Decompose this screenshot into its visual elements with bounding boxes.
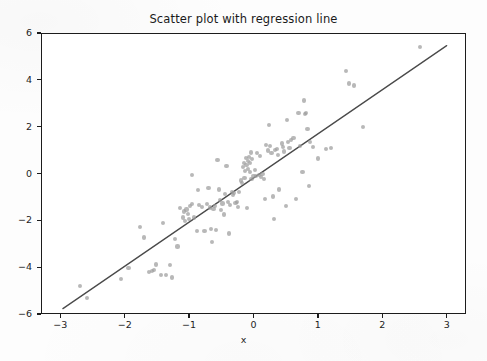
x-axis-tick-label: −1 [174, 319, 204, 330]
scatter-point [287, 146, 291, 150]
figure-container: Scatter plot with regression line −6−4−2… [0, 0, 487, 361]
scatter-point [235, 200, 239, 204]
scatter-point [214, 228, 218, 232]
x-axis-tick-label: 3 [432, 319, 462, 330]
y-axis-tick-label: 4 [2, 74, 32, 85]
scatter-point [347, 81, 351, 85]
scatter-point [262, 177, 266, 181]
scatter-point [307, 184, 311, 188]
scatter-point [142, 235, 146, 239]
x-axis-tick [188, 314, 189, 318]
scatter-point [206, 186, 210, 190]
scatter-point [213, 204, 217, 208]
scatter-point [249, 150, 253, 154]
scatter-point [275, 147, 279, 151]
y-axis-tick [37, 126, 41, 127]
x-axis-tick [446, 314, 447, 318]
y-axis-tick [37, 79, 41, 80]
scatter-point [361, 125, 365, 129]
scatter-point [200, 205, 204, 209]
scatter-point [296, 111, 300, 115]
x-axis-label: x [0, 334, 487, 345]
y-axis-tick [37, 173, 41, 174]
y-axis-tick-label: 6 [2, 27, 32, 38]
scatter-point [78, 284, 82, 288]
scatter-point [154, 262, 158, 266]
scatter-point [192, 215, 196, 219]
scatter-point [277, 187, 281, 191]
scatter-point [285, 118, 289, 122]
y-axis-tick-label: −4 [2, 261, 32, 272]
y-axis-tick-label: −2 [2, 214, 32, 225]
x-axis-tick [124, 314, 125, 318]
x-axis-tick-label: −3 [45, 319, 75, 330]
x-axis-tick-label: 1 [303, 319, 333, 330]
scatter-point [220, 201, 224, 205]
scatter-point [324, 147, 328, 151]
scatter-point [202, 229, 206, 233]
scatter-point [175, 244, 179, 248]
scatter-point [152, 268, 156, 272]
scatter-point [260, 172, 264, 176]
y-axis-tick [37, 220, 41, 221]
scatter-point [271, 194, 275, 198]
scatter-point [119, 277, 123, 281]
scatter-point [224, 164, 228, 168]
x-axis-tick-label: 0 [239, 319, 269, 330]
scatter-point [242, 176, 246, 180]
scatter-point [186, 212, 190, 216]
y-axis-tick [37, 313, 41, 314]
x-axis-tick [60, 314, 61, 318]
y-axis-tick-label: −6 [2, 308, 32, 319]
y-axis-tick-label: 2 [2, 121, 32, 132]
y-axis-tick [37, 32, 41, 33]
y-axis-tick-label: 0 [2, 168, 32, 179]
x-axis-tick-label: 2 [367, 319, 397, 330]
x-axis-tick [382, 314, 383, 318]
scatter-point [195, 229, 199, 233]
x-axis-tick [317, 314, 318, 318]
scatter-point [316, 156, 320, 160]
scatter-point [222, 212, 226, 216]
scatter-point [305, 127, 309, 131]
scatter-point [418, 45, 422, 49]
x-axis-tick-label: −2 [110, 319, 140, 330]
scatter-point [302, 98, 306, 102]
page-title: Scatter plot with regression line [0, 12, 487, 26]
scatter-point [276, 153, 280, 157]
scatter-point [227, 231, 231, 235]
scatter-point [217, 187, 221, 191]
y-axis-tick [37, 267, 41, 268]
scatter-point [267, 123, 271, 127]
x-axis-tick [253, 314, 254, 318]
scatter-point [352, 83, 356, 87]
scatter-point [253, 168, 257, 172]
scatter-point [263, 197, 267, 201]
scatter-point [291, 136, 295, 140]
scatter-point [300, 170, 304, 174]
